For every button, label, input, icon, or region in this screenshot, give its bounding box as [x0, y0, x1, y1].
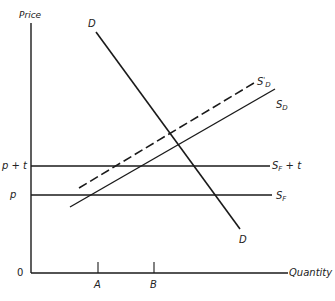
demand-label-top: D [88, 19, 96, 29]
sf-plus-t-label-suffix: + t [282, 160, 301, 171]
y-axis-label: Price [19, 11, 41, 20]
sf-label: SF [276, 191, 286, 201]
tick-label-a: A [94, 280, 101, 290]
sf-plus-t-label-sub: F [278, 165, 282, 173]
sd-line [70, 89, 275, 207]
tick-label-b: B [150, 280, 157, 290]
demand-label-bottom: D [239, 235, 247, 245]
price-level-p: p [10, 190, 16, 200]
x-axis-label: Quantity [289, 268, 332, 278]
price-level-p-plus-t: p + t [2, 161, 27, 171]
origin-label: 0 [17, 268, 23, 278]
sd-label: SD [276, 100, 288, 110]
sd-prime-label: S'D [257, 77, 271, 87]
sd-prime-line [79, 83, 254, 188]
sd-prime-label-sub: D [265, 81, 270, 89]
sd-label-sub: D [282, 104, 287, 112]
sf-plus-t-label: SF + t [272, 161, 301, 171]
diagram-canvas [0, 0, 335, 301]
sf-label-sub: F [282, 195, 286, 203]
demand-line [96, 32, 240, 229]
